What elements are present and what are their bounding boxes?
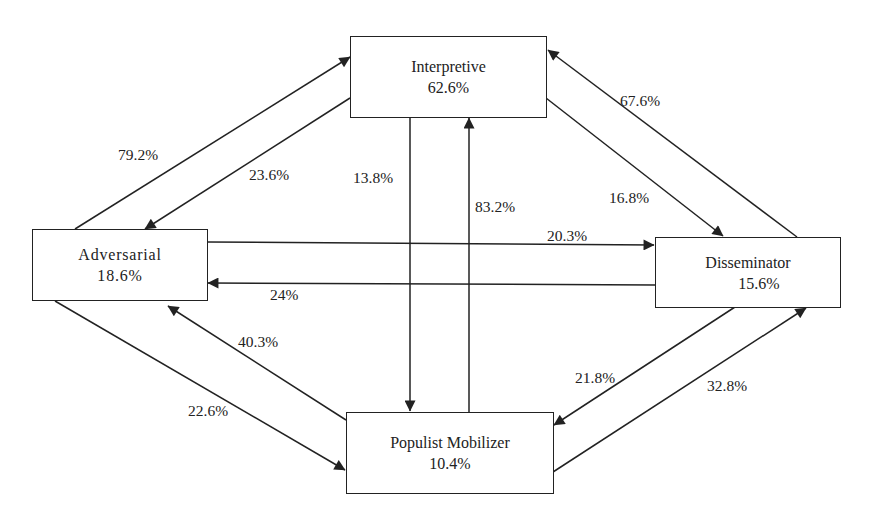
node-disseminator-name: Disseminator <box>705 252 790 273</box>
node-populist-pct: 10.4% <box>429 453 470 474</box>
label-populist-to-adversarial: 40.3% <box>238 333 278 351</box>
label-adversarial-to-interpretive: 79.2% <box>118 146 158 164</box>
edge-adversarial-to-interpretive <box>75 57 350 229</box>
node-disseminator: Disseminator 15.6% <box>655 237 841 308</box>
edge-disseminator-to-interpretive <box>548 50 797 237</box>
label-populist-to-disseminator: 32.8% <box>707 377 747 395</box>
edge-disseminator-to-adversarial <box>208 283 655 285</box>
edge-populist-to-disseminator <box>553 308 806 472</box>
label-adversarial-to-populist: 22.6% <box>188 402 228 420</box>
edge-interpretive-to-adversarial <box>145 98 350 229</box>
node-adversarial: Adversarial 18.6% <box>32 229 208 301</box>
node-populist-name: Populist Mobilizer <box>390 432 510 453</box>
node-interpretive-pct: 62.6% <box>428 77 469 98</box>
node-disseminator-pct: 15.6% <box>716 273 779 294</box>
node-interpretive-name: Interpretive <box>411 56 486 77</box>
node-populist-mobilizer: Populist Mobilizer 10.4% <box>346 412 554 494</box>
label-interpretive-to-disseminator: 16.8% <box>609 189 649 207</box>
role-transition-diagram: Interpretive 62.6% Adversarial 18.6% Dis… <box>0 0 870 527</box>
label-interpretive-to-adversarial: 23.6% <box>249 166 289 184</box>
label-populist-to-interpretive: 83.2% <box>475 198 515 216</box>
label-disseminator-to-interpretive: 67.6% <box>620 92 660 110</box>
edge-disseminator-to-populist <box>554 307 735 425</box>
label-disseminator-to-populist: 21.8% <box>575 369 615 387</box>
label-interpretive-to-populist: 13.8% <box>353 169 393 187</box>
node-adversarial-pct: 18.6% <box>97 265 142 286</box>
node-interpretive: Interpretive 62.6% <box>350 36 547 118</box>
label-disseminator-to-adversarial: 24% <box>270 286 298 304</box>
node-adversarial-name: Adversarial <box>78 244 161 265</box>
label-adversarial-to-disseminator: 20.3% <box>547 227 587 245</box>
edge-interpretive-to-disseminator <box>546 98 723 236</box>
